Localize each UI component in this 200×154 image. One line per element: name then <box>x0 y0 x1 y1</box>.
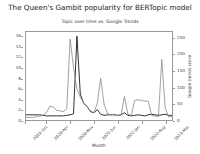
y-axis-left-tick <box>21 36 23 37</box>
series-line-2 <box>26 39 172 117</box>
y-axis-right-tick <box>173 71 175 72</box>
y-axis-left-tick <box>21 110 23 111</box>
series-line-1 <box>26 36 172 116</box>
x-axis-tick-label: 2021-Jun <box>101 125 117 141</box>
y-axis-left-tick <box>21 68 23 69</box>
x-axis-tick-label: 2019-Oct <box>32 125 48 141</box>
y-axis-right-tick-label: 250 <box>177 36 185 40</box>
y-axis-left-labels: 0246810121416 <box>0 31 23 121</box>
y-axis-right-tick-label: 100 <box>177 86 185 90</box>
y-axis-right-tick <box>173 54 175 55</box>
y-axis-right-tick-label: 200 <box>177 52 185 56</box>
y-axis-right-tick-label: 50 <box>177 102 182 106</box>
plot-area <box>25 31 173 121</box>
x-axis-labels: 2019-Oct2020-Apr2020-Nov2021-Jun2022-Jan… <box>0 121 200 143</box>
chart-title: The Queen's Gambit popularity for BERTop… <box>0 3 200 12</box>
x-axis-title: Month <box>25 143 173 148</box>
y-axis-right-tick <box>173 88 175 89</box>
y-axis-left-tick <box>21 89 23 90</box>
x-axis-tick-label: 2020-Apr <box>53 125 69 141</box>
x-axis-tick-label: 2022-Aug <box>150 125 167 142</box>
x-axis-tick-label: 2022-Jan <box>125 125 141 141</box>
y-axis-right-tick-label: 150 <box>177 69 185 73</box>
y-axis-right-tick <box>173 104 175 105</box>
y-axis-left-tick <box>21 57 23 58</box>
y-axis-right-title: Google trends score <box>185 31 195 121</box>
chart-container: The Queen's Gambit popularity for BERTop… <box>0 0 200 154</box>
y-axis-right-title-text: Google trends score <box>188 54 193 97</box>
y-axis-left-tick <box>21 100 23 101</box>
x-axis-tick-label: 2020-Nov <box>77 125 94 142</box>
y-axis-right-tick <box>173 38 175 39</box>
x-axis-tick-label: 2023-Mar <box>174 125 190 141</box>
y-axis-left-tick <box>21 79 23 80</box>
chart-subtitle: Topic over time vs. Google Trends <box>0 19 200 25</box>
plot-svg <box>26 32 172 120</box>
y-axis-left-tick <box>21 47 23 48</box>
